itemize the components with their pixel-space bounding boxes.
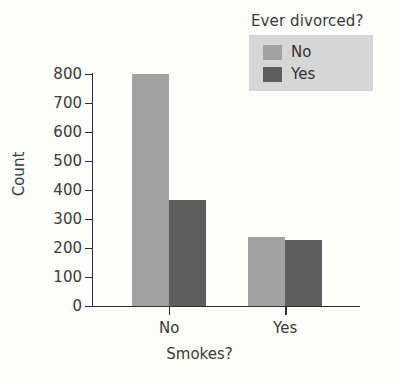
y-tick-label-300: 300 xyxy=(36,212,82,227)
x-tick-label-no: No xyxy=(159,320,179,336)
x-tick-no xyxy=(169,307,170,315)
y-tick-label-500: 500 xyxy=(36,154,82,169)
y-tick-600 xyxy=(85,132,92,133)
y-tick-0 xyxy=(85,306,92,307)
y-tick-300 xyxy=(85,219,92,220)
y-tick-label-800: 800 xyxy=(36,67,82,82)
y-tick-label-0: 0 xyxy=(36,299,82,314)
bar-no-yes xyxy=(169,200,206,306)
y-tick-label-700: 700 xyxy=(36,96,82,111)
bar-group-yes xyxy=(248,74,322,306)
bar-group-no xyxy=(132,74,206,306)
x-axis-title: Smokes? xyxy=(0,345,399,363)
bars-layer xyxy=(93,74,351,306)
y-axis-line xyxy=(92,73,93,307)
x-axis-line xyxy=(92,306,360,307)
bar-chart: Ever divorced? No Yes 010020030040050060… xyxy=(0,0,399,383)
bar-yes-yes xyxy=(285,240,322,306)
y-tick-label-200: 200 xyxy=(36,241,82,256)
bar-yes-no xyxy=(248,237,285,306)
legend-title: Ever divorced? xyxy=(251,12,391,31)
legend-item-no: No xyxy=(263,44,311,60)
y-tick-200 xyxy=(85,248,92,249)
y-tick-700 xyxy=(85,103,92,104)
y-tick-800 xyxy=(85,74,92,75)
plot-area xyxy=(93,74,351,306)
y-tick-100 xyxy=(85,277,92,278)
legend-swatch-no xyxy=(263,45,282,60)
y-tick-500 xyxy=(85,161,92,162)
bar-no-no xyxy=(132,74,169,306)
y-tick-400 xyxy=(85,190,92,191)
y-tick-label-100: 100 xyxy=(36,270,82,285)
y-axis-title: Count xyxy=(10,129,28,219)
y-tick-label-600: 600 xyxy=(36,125,82,140)
x-tick-label-yes: Yes xyxy=(273,320,297,336)
y-tick-label-400: 400 xyxy=(36,183,82,198)
x-tick-yes xyxy=(285,307,286,315)
legend-label-no: No xyxy=(291,44,311,60)
